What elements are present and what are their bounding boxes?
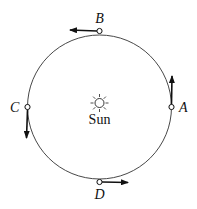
point-c bbox=[25, 104, 30, 109]
point-b bbox=[97, 28, 102, 33]
sun-icon bbox=[91, 94, 109, 112]
velocity-arrow-b bbox=[70, 30, 97, 31]
point-a bbox=[169, 104, 174, 109]
orbit-circle bbox=[28, 35, 172, 179]
point-d bbox=[97, 179, 102, 184]
orbit-diagram: Sun B A C D bbox=[0, 0, 197, 209]
velocity-arrow-c bbox=[27, 110, 28, 138]
velocity-arrow-d bbox=[102, 182, 128, 183]
velocity-arrow-a bbox=[172, 76, 173, 104]
label-d: D bbox=[93, 187, 104, 202]
label-b: B bbox=[95, 11, 104, 26]
label-a: A bbox=[178, 100, 188, 115]
label-c: C bbox=[10, 100, 20, 115]
sun-label: Sun bbox=[89, 112, 111, 127]
